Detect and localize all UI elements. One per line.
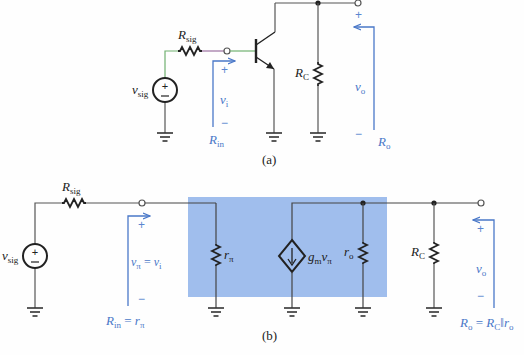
label-vsig-a: vsig: [132, 83, 148, 99]
resistor-rsig-icon: [178, 47, 202, 55]
label-vsig-b: vsig: [2, 249, 18, 265]
label-rsig-a: Rsig: [178, 28, 196, 44]
ground-icon: [426, 308, 442, 316]
label-vo-b: vo: [476, 262, 486, 278]
label-ro: ro: [344, 245, 354, 261]
ground-icon: [208, 308, 224, 316]
caption-a: (a): [262, 152, 276, 168]
vi-plus-a: +: [221, 64, 228, 76]
part-a-circuit: +: [153, 0, 374, 141]
vo-plus-b: +: [477, 223, 484, 235]
resistor-rc-icon: [430, 242, 438, 264]
label-rsig-b: Rsig: [62, 180, 80, 196]
label-vi-a: vi: [220, 93, 228, 109]
vpi-minus-b: −: [138, 293, 145, 305]
ground-icon: [27, 308, 43, 316]
vo-plus-a: +: [355, 9, 362, 21]
ground-icon: [157, 133, 173, 141]
output-terminal: [355, 0, 361, 6]
caption-b: (b): [262, 328, 277, 344]
output-terminal: [478, 200, 484, 206]
resistor-rsig-icon: [62, 199, 86, 207]
ground-icon: [266, 133, 282, 141]
input-terminal: [139, 200, 145, 206]
label-vo-a: vo: [355, 80, 365, 96]
voltage-source-icon: +: [23, 244, 47, 268]
label-gm-vpi: gmvπ: [308, 250, 332, 266]
input-terminal: [224, 48, 230, 54]
label-vpi-eq-vi: vπ = vi: [131, 256, 162, 271]
voltage-source-icon: +: [153, 78, 177, 102]
svg-text:+: +: [32, 246, 38, 258]
label-rc-b: RC: [411, 245, 425, 261]
vo-minus-b: −: [477, 290, 484, 302]
vo-minus-a: −: [355, 128, 362, 140]
label-rc-a: RC: [295, 66, 309, 82]
label-rin-a: Rin: [209, 133, 224, 149]
vpi-plus-b: +: [138, 219, 145, 231]
npn-transistor-icon: [256, 3, 275, 133]
label-rin-eq-rpi: Rin = rπ: [106, 314, 144, 330]
vi-minus-a: −: [221, 117, 228, 129]
label-ro-eq-rc-par-ro: Ro = RC‖ro: [460, 316, 513, 332]
schematic-drawing: +: [0, 0, 524, 355]
ground-icon: [355, 308, 371, 316]
resistor-rc-icon: [314, 62, 322, 86]
svg-text:+: +: [162, 80, 168, 92]
circuit-figure: +: [0, 0, 524, 355]
label-ro-a: Ro: [378, 135, 390, 151]
label-rpi: rπ: [224, 248, 234, 264]
ground-icon: [310, 133, 326, 141]
ground-icon: [284, 308, 300, 316]
